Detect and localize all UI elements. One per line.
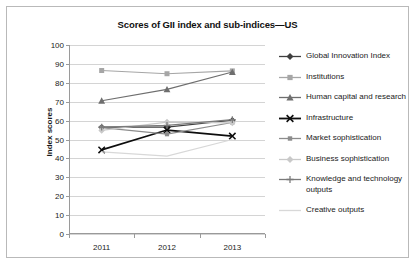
y-tick-label: 30	[55, 173, 64, 182]
legend-item-label: Market sophistication	[306, 133, 381, 144]
legend-item-global-innovation-index[interactable]: Global Innovation Index	[279, 51, 415, 62]
y-tick-label: 50	[55, 135, 64, 144]
y-tick-label: 10	[55, 211, 64, 220]
legend-item-label: Business sophistication	[306, 154, 389, 165]
y-tick-label: 40	[55, 154, 64, 163]
y-axis-title: Index scores	[45, 108, 54, 157]
series-lines	[69, 45, 265, 234]
y-tick-label: 80	[55, 78, 64, 87]
legend-marker-icon	[279, 174, 301, 185]
x-tick-mark	[200, 234, 201, 238]
series-institutions	[99, 68, 235, 76]
y-tick-label: 90	[55, 59, 64, 68]
x-tick-mark	[69, 234, 70, 238]
y-tick-label: 60	[55, 116, 64, 125]
legend-item-label: Creative outputs	[306, 205, 364, 216]
legend-item-label: Human capital and research	[306, 92, 406, 103]
legend-marker-icon	[279, 92, 301, 103]
legend-marker-icon	[279, 154, 301, 165]
legend-item-institutions[interactable]: Institutions	[279, 72, 415, 83]
y-tick-label: 0	[60, 230, 64, 239]
plot-area: 0102030405060708090100 201120122013	[69, 45, 265, 234]
y-tick-label: 20	[55, 192, 64, 201]
gridline	[69, 234, 265, 235]
chart-legend: Global Innovation IndexInstitutionsHuman…	[279, 51, 415, 225]
legend-item-business-sophistication[interactable]: Business sophistication	[279, 154, 415, 165]
legend-item-label: Global Innovation Index	[306, 51, 390, 62]
y-tick-label: 70	[55, 97, 64, 106]
x-tick-label: 2011	[93, 243, 110, 252]
legend-item-knowledge-and-technology-outputs[interactable]: Knowledge and technology outputs	[279, 174, 415, 195]
legend-marker-icon	[279, 72, 301, 83]
chart-container: Scores of GII index and sub-indices—US I…	[6, 6, 409, 258]
legend-marker-icon	[279, 205, 301, 216]
legend-marker-icon	[279, 113, 301, 124]
legend-item-creative-outputs[interactable]: Creative outputs	[279, 205, 415, 216]
legend-item-infrastructure[interactable]: Infrastructure	[279, 113, 415, 124]
series-creative-outputs	[102, 140, 233, 157]
series-infrastructure	[98, 127, 235, 153]
legend-item-human-capital-and-research[interactable]: Human capital and research	[279, 92, 415, 103]
legend-item-label: Knowledge and technology outputs	[306, 174, 415, 195]
legend-item-label: Institutions	[306, 72, 344, 83]
x-tick-label: 2012	[158, 243, 176, 252]
x-tick-label: 2013	[223, 243, 241, 252]
x-tick-mark	[134, 234, 135, 238]
legend-marker-icon	[279, 133, 301, 144]
x-tick-mark	[265, 234, 266, 238]
legend-item-label: Infrastructure	[306, 113, 353, 124]
y-tick-label: 100	[51, 41, 64, 50]
legend-item-market-sophistication[interactable]: Market sophistication	[279, 133, 415, 144]
chart-title: Scores of GII index and sub-indices—US	[7, 19, 408, 30]
legend-marker-icon	[279, 51, 301, 62]
